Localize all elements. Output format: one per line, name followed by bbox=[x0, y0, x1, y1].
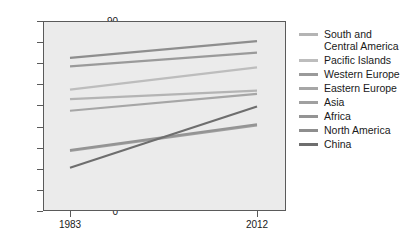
legend-item[interactable]: Asia bbox=[299, 96, 406, 108]
legend-item-label: Asia bbox=[324, 96, 344, 108]
legend-item-label: Pacific Islands bbox=[324, 54, 391, 66]
legend-item-label: Eastern Europe bbox=[324, 82, 397, 94]
legend-item-label: China bbox=[324, 138, 351, 150]
y-axis-tick-mark bbox=[37, 211, 43, 212]
legend-item[interactable]: Eastern Europe bbox=[299, 82, 406, 94]
legend-item[interactable]: Western Europe bbox=[299, 68, 406, 80]
legend-item-label: South and Central America bbox=[324, 28, 406, 52]
x-axis-tick-label: 2012 bbox=[227, 219, 287, 230]
legend-item[interactable]: China bbox=[299, 138, 406, 150]
series-line bbox=[70, 94, 257, 111]
x-axis-tick-mark bbox=[257, 211, 258, 217]
series-line bbox=[70, 67, 257, 89]
series-lines bbox=[43, 21, 286, 211]
legend-color-swatch bbox=[299, 129, 318, 132]
legend-item[interactable]: South and Central America bbox=[299, 28, 406, 52]
series-line bbox=[70, 107, 257, 168]
legend-item[interactable]: Africa bbox=[299, 110, 406, 122]
legend-color-swatch bbox=[299, 33, 318, 36]
legend-color-swatch bbox=[299, 59, 318, 62]
legend-item-label: North America bbox=[324, 124, 391, 136]
x-axis-tick-label: 1983 bbox=[40, 219, 100, 230]
legend-color-swatch bbox=[299, 143, 318, 146]
legend-color-swatch bbox=[299, 101, 318, 104]
legend-color-swatch bbox=[299, 115, 318, 118]
x-axis-tick-mark bbox=[70, 211, 71, 217]
legend-item[interactable]: North America bbox=[299, 124, 406, 136]
series-line bbox=[70, 91, 257, 99]
line-chart: 9080706050403020100 19832012 South and C… bbox=[0, 0, 406, 244]
legend-item[interactable]: Pacific Islands bbox=[299, 54, 406, 66]
legend-item-label: Western Europe bbox=[324, 68, 400, 80]
legend: South and Central AmericaPacific Islands… bbox=[299, 28, 406, 152]
plot-region bbox=[43, 21, 286, 211]
legend-item-label: Africa bbox=[324, 110, 351, 122]
legend-color-swatch bbox=[299, 73, 318, 76]
legend-color-swatch bbox=[299, 87, 318, 90]
